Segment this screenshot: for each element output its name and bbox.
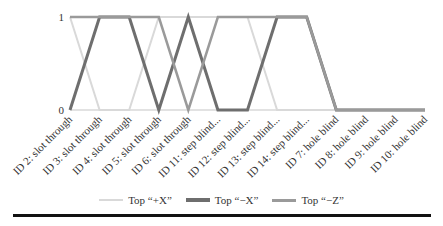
legend-item: Top “+X” <box>99 194 172 206</box>
y-tick-label: 1 <box>59 11 65 23</box>
series-line-1 <box>70 17 425 110</box>
series-line-0 <box>70 17 425 110</box>
legend-swatch <box>99 199 123 202</box>
series-line-2 <box>70 17 425 110</box>
legend: Top “+X”Top “−X”Top “−Z” <box>0 194 443 206</box>
x-axis-labels: ID 2: slot throughID 3: slot throughID 4… <box>10 113 429 180</box>
legend-item: Top “−Z” <box>272 194 343 206</box>
legend-label: Top “+X” <box>128 194 172 206</box>
y-axis: 01 <box>59 11 426 116</box>
bottom-rule <box>13 214 431 217</box>
legend-item: Top “−X” <box>186 194 259 206</box>
legend-label: Top “−Z” <box>301 194 343 206</box>
legend-swatch <box>186 198 210 202</box>
legend-swatch <box>272 199 296 202</box>
line-chart: 01 ID 2: slot throughID 3: slot throughI… <box>0 0 443 190</box>
plot-area <box>70 17 425 110</box>
legend-label: Top “−X” <box>215 194 259 206</box>
